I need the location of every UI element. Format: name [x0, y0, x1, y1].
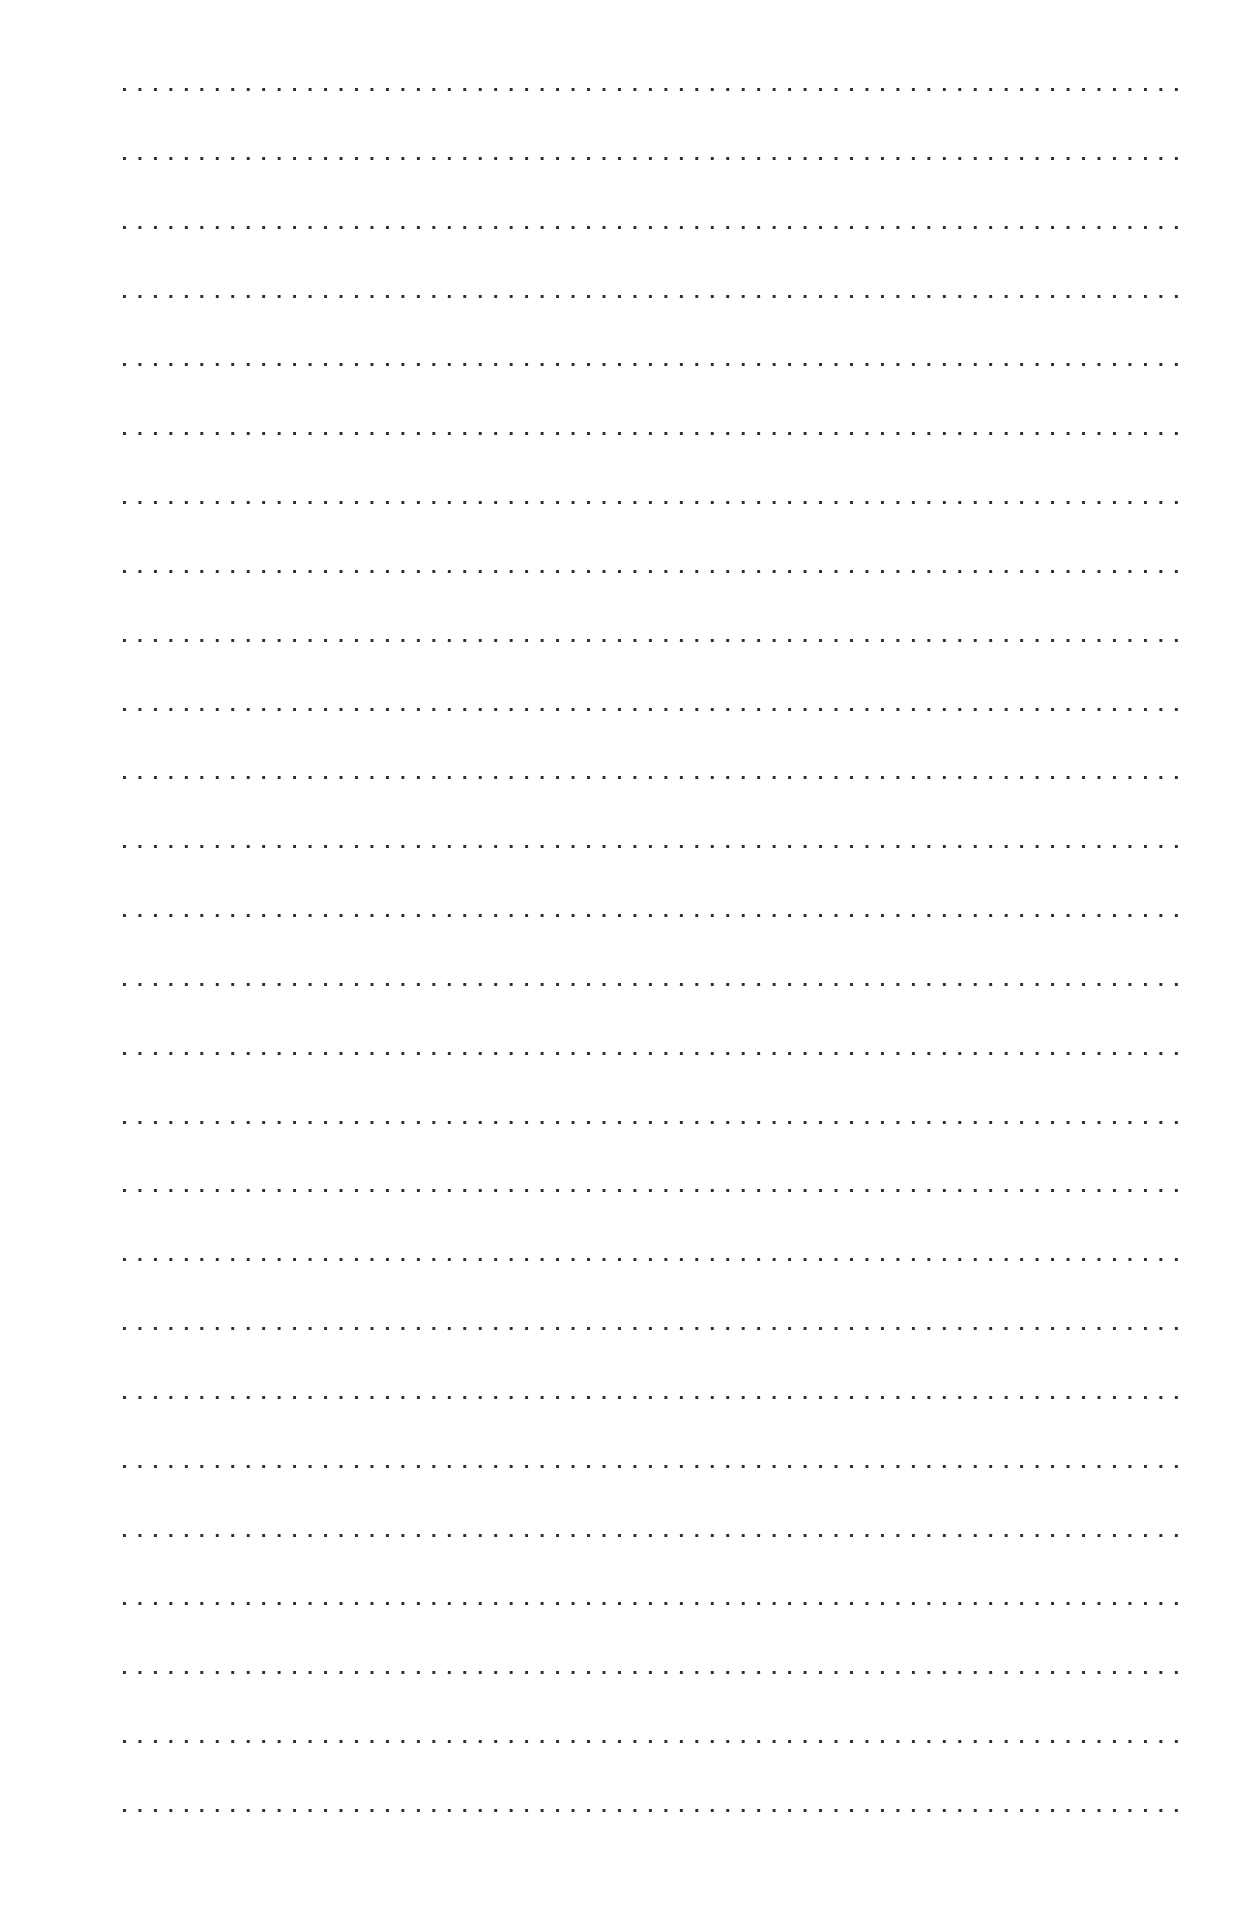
dotted-writing-line: [123, 501, 1181, 504]
dotted-writing-line: [123, 1602, 1181, 1605]
dotted-writing-line: [123, 432, 1181, 435]
dotted-writing-line: [123, 639, 1181, 642]
dotted-writing-line: [123, 226, 1181, 229]
dotted-writing-line: [123, 1327, 1181, 1330]
dotted-writing-line: [123, 983, 1181, 986]
writing-sheet: [0, 0, 1248, 1922]
dotted-writing-line: [123, 1189, 1181, 1192]
dotted-writing-line: [123, 1534, 1181, 1537]
dotted-writing-line: [123, 1396, 1181, 1399]
dotted-writing-line: [123, 295, 1181, 298]
dotted-writing-line: [123, 1740, 1181, 1743]
dotted-writing-line: [123, 1121, 1181, 1124]
dotted-writing-line: [123, 1671, 1181, 1674]
dotted-writing-line: [123, 157, 1181, 160]
dotted-writing-line: [123, 845, 1181, 848]
dotted-writing-line: [123, 776, 1181, 779]
dotted-writing-line: [123, 570, 1181, 573]
dotted-writing-line: [123, 363, 1181, 366]
dotted-writing-line: [123, 88, 1181, 91]
dotted-writing-line: [123, 708, 1181, 711]
dotted-writing-line: [123, 1465, 1181, 1468]
dotted-writing-line: [123, 1052, 1181, 1055]
dotted-writing-line: [123, 1258, 1181, 1261]
dotted-writing-line: [123, 1809, 1181, 1812]
dotted-writing-line: [123, 914, 1181, 917]
